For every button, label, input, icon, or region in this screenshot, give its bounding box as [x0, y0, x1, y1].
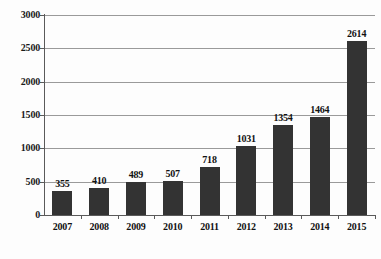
- bar: [89, 188, 109, 215]
- bar: [126, 182, 146, 215]
- bar: [236, 146, 256, 215]
- bar-chart-figure: 050010001500200025003000 355410489507718…: [0, 0, 381, 259]
- y-tick-label: 2500: [4, 43, 40, 53]
- bar-value-label: 1031: [222, 134, 270, 144]
- bar: [273, 125, 293, 215]
- bar: [52, 191, 72, 215]
- bar: [310, 117, 330, 215]
- gridline: [44, 82, 375, 83]
- bar: [200, 167, 220, 215]
- bar-value-label: 507: [149, 169, 197, 179]
- bar: [163, 181, 183, 215]
- bar-value-label: 2614: [333, 29, 381, 39]
- y-tick-label: 500: [4, 177, 40, 187]
- gridline: [44, 15, 375, 16]
- y-tick-label: 3000: [4, 10, 40, 20]
- y-tick-label: 2000: [4, 77, 40, 87]
- bar-value-label: 1464: [296, 105, 344, 115]
- x-axis-line: [44, 215, 376, 216]
- y-tick-label: 1500: [4, 110, 40, 120]
- bar-value-label: 718: [186, 155, 234, 165]
- y-tick-label: 1000: [4, 143, 40, 153]
- gridline: [44, 48, 375, 49]
- x-tick-label: 2015: [333, 222, 381, 232]
- y-tick-label: 0: [4, 210, 40, 220]
- bar: [347, 41, 367, 215]
